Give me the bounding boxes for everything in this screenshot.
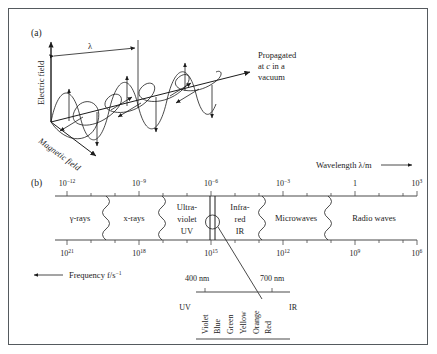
band-label-x-rays: x-rays bbox=[123, 213, 144, 223]
visible-upper-bound-label: 700 nm bbox=[260, 274, 285, 283]
band-label-infrared-line2: red bbox=[235, 214, 247, 224]
frequency-tick-label-1: 1018 bbox=[132, 248, 146, 258]
visible-band-callout-line bbox=[218, 227, 262, 299]
frequency-tick-label-0: 1021 bbox=[60, 248, 74, 258]
lambda-arrow bbox=[54, 48, 135, 56]
wavelength-tick-label-1: 10−9 bbox=[132, 178, 146, 188]
band-label-radio-waves: Radio waves bbox=[352, 213, 396, 223]
band-label-infrared-line1: Infra- bbox=[230, 202, 250, 212]
visible-band-callout-circle bbox=[206, 215, 220, 229]
band-label-microwaves: Microwaves bbox=[275, 213, 317, 223]
wavelength-axis-label: Wavelength λ/m bbox=[316, 160, 372, 170]
electric-field-label: Electric field bbox=[36, 60, 46, 105]
wavelength-tick-marks bbox=[67, 191, 417, 196]
propagation-line-3: vacuum bbox=[258, 72, 285, 82]
visible-lower-bound-label: 400 nm bbox=[185, 274, 210, 283]
b-arrow-4 bbox=[170, 83, 191, 96]
wavelength-tick-label-5: 103 bbox=[412, 178, 423, 188]
frequency-tick-label-2: 1015 bbox=[204, 248, 218, 258]
panel-a-label: (a) bbox=[31, 28, 42, 39]
wavelength-tick-label-0: 10−12 bbox=[59, 178, 76, 188]
band-label-ultraviolet-line3: UV bbox=[181, 226, 194, 236]
band-label-infrared-line3: IR bbox=[236, 226, 245, 236]
band-label-ultraviolet-line1: Ultra- bbox=[177, 202, 197, 212]
visible-color-violet: Violet bbox=[201, 314, 210, 334]
frequency-axis-label: Frequency f/s−1 bbox=[69, 270, 122, 280]
visible-color-blue: Blue bbox=[213, 318, 222, 334]
band-label-gamma-rays: γ-rays bbox=[69, 213, 91, 223]
frequency-tick-label-3: 1012 bbox=[276, 248, 290, 258]
propagation-line-2: at c in a bbox=[258, 61, 285, 71]
propagation-pre: at bbox=[258, 61, 266, 71]
propagation-post: in a bbox=[270, 61, 285, 71]
figure-root: (a) Electric field Magnetic field λ bbox=[0, 0, 437, 354]
frequency-tick-label-5: 106 bbox=[412, 248, 423, 258]
wavelength-tick-label-2: 10−6 bbox=[204, 178, 218, 188]
figure-canvas: (a) Electric field Magnetic field λ bbox=[0, 0, 437, 354]
band-separator-microwave-radio bbox=[325, 196, 332, 240]
propagation-line-1: Propagated bbox=[258, 50, 297, 60]
frequency-tick-marks bbox=[67, 240, 417, 245]
visible-color-orange: Orange bbox=[252, 310, 261, 334]
visible-color-red: Red bbox=[264, 321, 273, 334]
band-separator-xray-uv bbox=[159, 196, 166, 240]
band-separator-gamma-xray bbox=[103, 196, 110, 240]
band-label-ultraviolet-line2: violet bbox=[177, 214, 197, 224]
band-separator-ir-microwave bbox=[259, 196, 266, 240]
visible-right-edge-label: IR bbox=[289, 303, 298, 312]
visible-color-green: Green bbox=[226, 314, 235, 334]
frequency-tick-label-4: 109 bbox=[350, 248, 361, 258]
b-arrow-3 bbox=[118, 103, 141, 117]
lambda-symbol: λ bbox=[88, 41, 93, 51]
panel-b-label: (b) bbox=[31, 178, 42, 189]
wavelength-tick-label-3: 10−3 bbox=[276, 178, 290, 188]
visible-left-edge-label: UV bbox=[179, 303, 191, 312]
visible-color-yellow: Yellow bbox=[239, 311, 248, 334]
wavelength-tick-label-4: 1 bbox=[353, 179, 357, 188]
electric-field-wave bbox=[51, 72, 216, 140]
